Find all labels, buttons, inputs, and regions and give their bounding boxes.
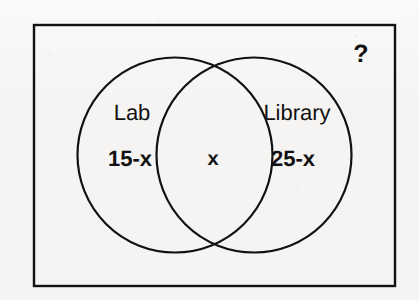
lab-set-label: Lab	[114, 102, 151, 124]
intersection-value-label: x	[207, 149, 218, 169]
library-circle	[157, 58, 352, 253]
library-only-value-label: 25-x	[271, 148, 315, 170]
outside-region-question-mark-label: ?	[353, 42, 368, 67]
library-set-label: Library	[263, 102, 330, 124]
lab-circle	[78, 58, 273, 253]
venn-diagram-figure: Lab 15-x x Library 25-x ?	[0, 0, 419, 300]
lab-only-value-label: 15-x	[108, 148, 152, 170]
